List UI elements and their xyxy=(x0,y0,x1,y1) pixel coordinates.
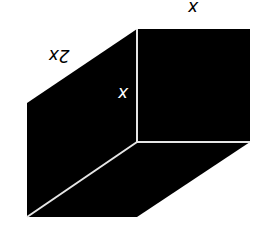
prism-svg: x 2x x xyxy=(0,0,263,238)
label-depth: 2x xyxy=(48,46,70,66)
prism-front-face xyxy=(137,29,250,142)
prism-diagram: x 2x x xyxy=(0,0,263,238)
label-top-width: x xyxy=(187,0,199,18)
label-height: x xyxy=(117,84,129,104)
